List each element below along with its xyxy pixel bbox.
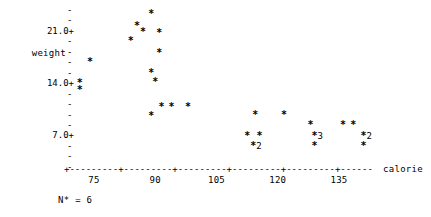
data-point-count-label: 3	[318, 132, 324, 141]
y-axis-minor-tick: -	[67, 142, 72, 151]
x-axis-tick-label: 135	[319, 176, 359, 185]
data-point: *	[312, 141, 318, 151]
missing-count-footnote: N* = 6	[58, 196, 92, 205]
y-axis-minor-tick: -	[67, 121, 72, 130]
data-point: *	[361, 141, 367, 151]
data-point: *	[244, 131, 250, 141]
data-point-count-label: 2	[367, 132, 373, 141]
y-axis-minor-tick: -	[67, 6, 72, 15]
data-point: *	[185, 102, 191, 112]
data-point: *	[156, 48, 162, 58]
x-axis-title: calorie	[383, 165, 423, 174]
data-point: *	[158, 102, 164, 112]
character-scatterplot: weight --21.0+----14.0+----7.0+--- +----…	[0, 0, 431, 217]
y-axis-minor-tick: -	[67, 69, 72, 78]
data-point: *	[307, 120, 313, 130]
y-axis-title: weight	[6, 49, 66, 58]
y-axis-major-tick: 7.0+	[0, 131, 74, 140]
data-point: *	[252, 110, 258, 120]
y-axis-minor-tick: -	[67, 58, 72, 67]
data-point: *	[87, 57, 93, 67]
y-axis-minor-tick: -	[67, 152, 72, 161]
x-axis-tick-label: 90	[135, 176, 175, 185]
data-point: *	[350, 120, 356, 130]
data-point: *	[156, 28, 162, 38]
data-point: *	[340, 120, 346, 130]
data-point: *	[256, 131, 262, 141]
data-point: *	[77, 85, 83, 95]
data-point: *	[134, 21, 140, 31]
y-axis-minor-tick: -	[67, 100, 72, 109]
y-axis-major-tick: 21.0+	[0, 27, 74, 36]
data-point: *	[128, 36, 134, 46]
data-point: *	[281, 110, 287, 120]
data-point: *	[148, 111, 154, 121]
x-axis-tick-label: 120	[258, 176, 298, 185]
y-axis-minor-tick: -	[67, 90, 72, 99]
data-point: *	[152, 77, 158, 87]
y-axis-minor-tick: -	[67, 48, 72, 57]
x-axis-line: +---------+---------+---------+---------…	[64, 165, 373, 174]
y-axis-minor-tick: -	[67, 37, 72, 46]
y-axis-minor-tick: -	[67, 16, 72, 25]
data-point: *	[148, 9, 154, 19]
y-axis-minor-tick: -	[67, 111, 72, 120]
y-axis-major-tick: 14.0+	[0, 79, 74, 88]
x-axis-tick-label: 75	[74, 176, 114, 185]
data-point: *	[140, 27, 146, 37]
data-point-count-label: 2	[256, 142, 262, 151]
x-axis-tick-label: 105	[197, 176, 237, 185]
data-point: *	[169, 102, 175, 112]
